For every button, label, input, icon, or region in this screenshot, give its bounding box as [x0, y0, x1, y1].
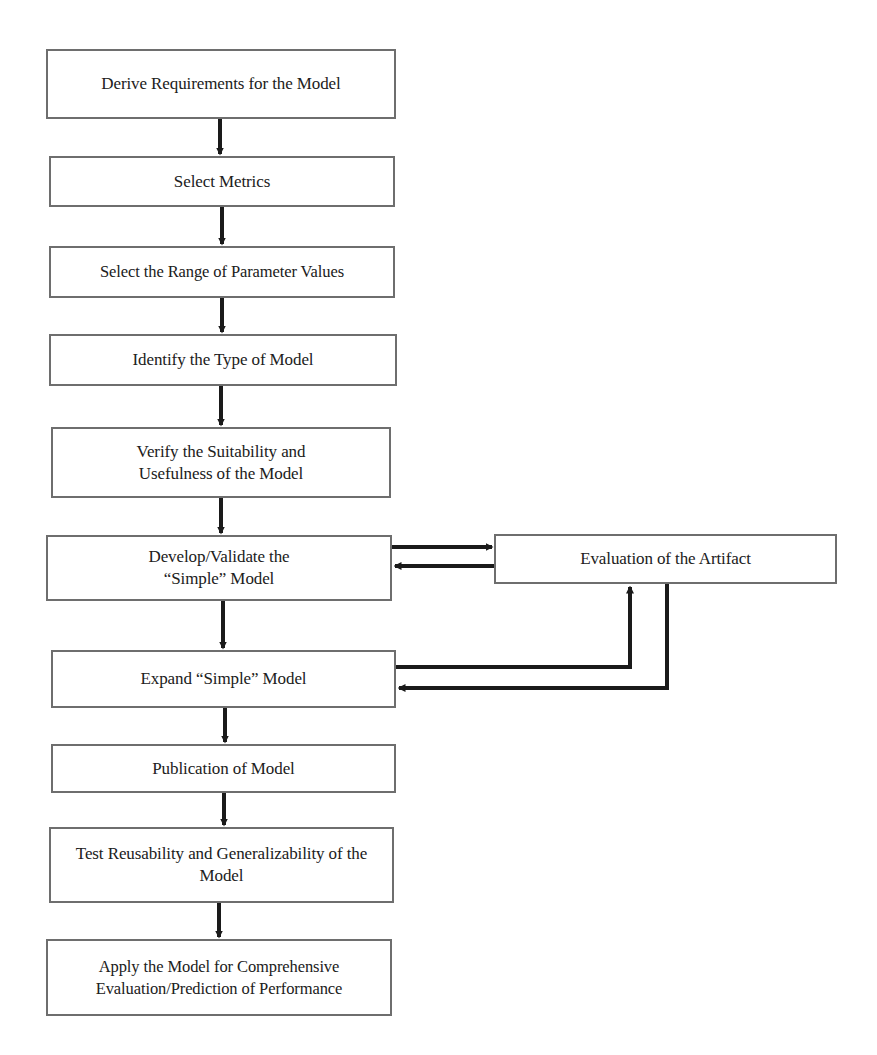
step-apply-model: Apply the Model for Comprehensive Evalua…	[46, 939, 392, 1016]
arrow-s7-artifact	[396, 587, 630, 667]
step-label: Identify the Type of Model	[133, 349, 314, 371]
step-expand-simple-model: Expand “Simple” Model	[51, 650, 396, 708]
step-label: Select the Range of Parameter Values	[100, 261, 344, 283]
step-label: Apply the Model for Comprehensive Evalua…	[52, 956, 386, 1000]
step-label: Expand “Simple” Model	[141, 668, 307, 690]
step-publication-of-model: Publication of Model	[51, 744, 396, 793]
step-label: Select Metrics	[174, 171, 270, 193]
artifact-label: Evaluation of the Artifact	[580, 548, 751, 570]
arrow-artifact-s7	[399, 583, 667, 688]
step-identify-model-type: Identify the Type of Model	[49, 334, 397, 386]
step-label: Derive Requirements for the Model	[101, 73, 340, 95]
step-label: Publication of Model	[152, 758, 294, 780]
step-label: Develop/Validate the “Simple” Model	[119, 546, 319, 590]
step-label: Test Reusability and Generalizability of…	[57, 843, 387, 887]
step-select-metrics: Select Metrics	[49, 156, 395, 207]
step-develop-validate-simple-model: Develop/Validate the “Simple” Model	[46, 535, 392, 601]
evaluation-of-artifact: Evaluation of the Artifact	[494, 534, 837, 584]
step-derive-requirements: Derive Requirements for the Model	[46, 49, 396, 119]
step-select-parameter-range: Select the Range of Parameter Values	[49, 246, 395, 298]
step-verify-suitability: Verify the Suitability and Usefulness of…	[51, 427, 391, 498]
step-label: Verify the Suitability and Usefulness of…	[106, 441, 336, 485]
step-test-reusability: Test Reusability and Generalizability of…	[49, 827, 394, 903]
